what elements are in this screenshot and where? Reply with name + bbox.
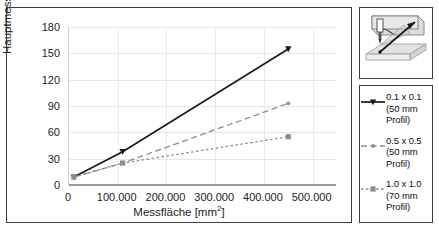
- series-line: [74, 137, 288, 177]
- series-marker: [286, 134, 291, 139]
- series-layer: [69, 27, 337, 185]
- legend-label-line: 0.5 x 0.5: [386, 135, 432, 147]
- series-line: [74, 49, 288, 177]
- gridline-horizontal: [69, 185, 336, 186]
- legend-label-line: 1.0 x 1.0: [386, 178, 432, 190]
- y-tick-label: 180: [8, 22, 60, 33]
- legend-label-line: (50 mm: [386, 103, 432, 115]
- legend-entry[interactable]: 1.0 x 1.0(70 mmProfil): [360, 178, 432, 213]
- legend-label-line: (70 mm: [386, 190, 432, 202]
- y-tick-label: 90: [8, 101, 60, 112]
- plot-area: [68, 27, 336, 185]
- legend-entry[interactable]: 0.5 x 0.5(50 mmProfil): [360, 135, 432, 170]
- legend-entry[interactable]: 0.1 x 0.1(50 mmProfil): [360, 91, 432, 126]
- y-tick-label: 120: [8, 75, 60, 86]
- data-series: [71, 46, 292, 180]
- legend-label: 0.1 x 0.1(50 mmProfil): [386, 91, 432, 126]
- legend-label-line: (50 mm: [386, 146, 432, 158]
- y-tick-label: 30: [8, 154, 60, 165]
- x-axis-label-base: Messfläche [mm: [133, 206, 217, 218]
- figure-root: Hauptmesszeit [s] 0306090120150180 0100.…: [0, 0, 439, 233]
- data-series: [71, 134, 291, 180]
- legend-label-line: Profil): [386, 201, 432, 213]
- series-marker: [71, 175, 76, 180]
- x-axis-label-tail: ]: [221, 206, 224, 218]
- measurement-setup-icon-panel: [359, 7, 433, 79]
- legend-label-line: 0.1 x 0.1: [386, 91, 432, 103]
- legend-label: 1.0 x 1.0(70 mmProfil): [386, 178, 432, 213]
- chart-panel: Hauptmesszeit [s] 0306090120150180 0100.…: [6, 7, 352, 223]
- tactile-probe-measurement-icon: [360, 8, 431, 77]
- y-tick-label: 0: [8, 180, 60, 191]
- legend-label-line: Profil): [386, 114, 432, 126]
- y-tick-label: 60: [8, 127, 60, 138]
- x-axis-label: Messfläche [mm2]: [7, 204, 351, 218]
- legend-label-line: Profil): [386, 158, 432, 170]
- series-marker: [286, 101, 290, 105]
- x-tick-label: 500.000: [272, 192, 352, 203]
- legend-panel: 0.1 x 0.1(50 mmProfil)0.5 x 0.5(50 mmPro…: [359, 85, 433, 223]
- legend-swatch: [361, 93, 385, 103]
- legend-swatch: [361, 137, 385, 147]
- y-tick-label: 150: [8, 48, 60, 59]
- data-series: [72, 101, 290, 179]
- legend-label: 0.5 x 0.5(50 mmProfil): [386, 135, 432, 170]
- series-marker: [120, 160, 125, 165]
- legend-swatch: [361, 180, 385, 190]
